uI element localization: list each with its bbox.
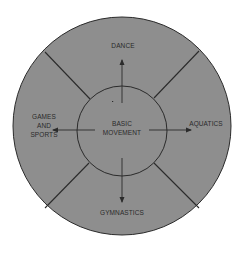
label-aquatics: AQUATICS	[188, 119, 224, 128]
label-dance: DANCE	[108, 41, 138, 50]
label-games-line2: AND	[27, 121, 61, 130]
label-basic-line1: BASIC	[97, 119, 147, 128]
label-basic-line2: MOVEMENT	[97, 128, 147, 137]
label-games-line1: GAMES	[27, 112, 61, 121]
speck-mark	[112, 101, 113, 102]
label-games-and-sports: GAMES AND SPORTS	[27, 112, 61, 139]
label-gymnastics-text: GYMNASTICS	[98, 208, 146, 217]
label-dance-text: DANCE	[108, 41, 138, 50]
label-games-line3: SPORTS	[27, 130, 61, 139]
label-gymnastics: GYMNASTICS	[98, 208, 146, 217]
label-basic-movement: BASIC MOVEMENT	[97, 119, 147, 137]
label-aquatics-text: AQUATICS	[188, 119, 224, 128]
